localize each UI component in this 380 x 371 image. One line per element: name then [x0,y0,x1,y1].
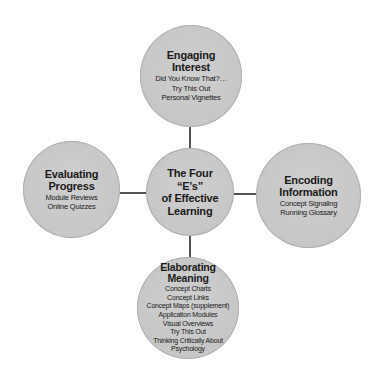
node-items: Module Reviews Online Quizzes [45,193,97,212]
node-title: Elaborating Meaning [160,262,216,284]
node-items: Concept Signaling Running Glossary [280,199,337,218]
node-engaging-interest: Engaging Interest Did You Know That?… Tr… [140,25,242,127]
node-title: Encoding Information [279,174,337,198]
node-item: Concept Charts [147,285,230,294]
node-item: Personal Vignettes [155,93,227,103]
node-item: Online Quizzes [45,202,97,212]
node-item: Concept Maps (supplement) [147,302,230,311]
four-es-diagram: Engaging Interest Did You Know That?… Tr… [0,0,380,371]
title-line: Interest [167,61,216,73]
node-item: Did You Know That?… [155,74,227,84]
title-line: Encoding [279,174,337,186]
title-line: of Effective [162,192,219,205]
connector-left [119,192,147,194]
title-line: Engaging [167,49,216,61]
connector-top [189,126,191,150]
node-title: Evaluating Progress [45,168,99,192]
node-items: Did You Know That?… Try This Out Persona… [155,74,227,103]
node-item: Psychology [147,345,230,354]
node-item: Running Glossary [280,208,337,218]
node-item: Concept Links [147,294,230,303]
node-item: Application Modules [147,311,230,320]
connector-bottom [189,235,191,259]
title-line: Information [279,186,337,198]
title-line: “E’s” [162,180,219,193]
node-items: Concept Charts Concept Links Concept Map… [147,285,230,354]
node-evaluating-progress: Evaluating Progress Module Reviews Onlin… [23,141,120,238]
title-line: Learning [162,205,219,218]
node-encoding-information: Encoding Information Concept Signaling R… [256,143,361,248]
node-elaborating-meaning: Elaborating Meaning Concept Charts Conce… [137,257,239,359]
title-line: The Four [162,167,219,180]
title-line: Meaning [160,273,216,284]
node-title: Engaging Interest [167,49,216,73]
node-center-four-es: The Four “E’s” of Effective Learning [146,148,234,236]
node-item: Visual Overviews [147,320,230,329]
node-item: Try This Out [147,328,230,337]
title-line: Evaluating [45,168,99,180]
connector-right [232,193,257,195]
title-line: Progress [45,180,99,192]
node-item: Module Reviews [45,193,97,203]
node-item: Concept Signaling [280,199,337,209]
node-item: Try This Out [155,84,227,94]
node-item: Thinking Critically About [147,337,230,346]
center-title: The Four “E’s” of Effective Learning [162,167,219,217]
